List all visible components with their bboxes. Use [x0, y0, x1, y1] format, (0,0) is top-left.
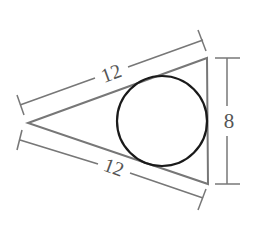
upper-side-label: 12 [98, 59, 124, 87]
triangle-incircle-diagram: 12 12 8 [0, 0, 258, 233]
inscribed-circle [117, 76, 207, 166]
base-label: 8 [224, 109, 235, 133]
lower-side-label: 12 [101, 153, 127, 181]
